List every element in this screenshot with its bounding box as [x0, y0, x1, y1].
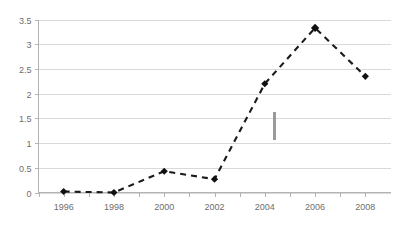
- y-tick-label: 0.5: [19, 164, 32, 174]
- y-axis-labels: 00.511.522.533.5: [19, 16, 32, 199]
- gridlines: [39, 21, 391, 194]
- x-tick-label: 1996: [54, 202, 74, 212]
- x-tick-label: 2008: [355, 202, 375, 212]
- x-tick-label: 2006: [305, 202, 325, 212]
- series-line-path: [64, 28, 366, 193]
- y-tick-label: 2: [26, 90, 31, 100]
- y-tick-label: 3.5: [19, 16, 32, 26]
- y-tick-label: 0: [26, 189, 31, 199]
- data-point-marker: [362, 73, 369, 80]
- data-point-marker: [211, 176, 218, 183]
- y-tick-label: 1: [26, 139, 31, 149]
- y-tick-label: 3: [26, 40, 31, 50]
- chart-canvas: 00.511.522.533.5 19961998200020022004200…: [0, 0, 406, 238]
- x-tick-label: 1998: [104, 202, 124, 212]
- x-tick-label: 2004: [255, 202, 275, 212]
- y-tick-label: 1.5: [19, 114, 32, 124]
- x-tick-label: 2002: [204, 202, 224, 212]
- line-chart: 00.511.522.533.5 19961998200020022004200…: [0, 0, 406, 238]
- data-point-marker: [60, 188, 67, 195]
- data-point-marker: [110, 189, 117, 196]
- x-axis-labels: 1996199820002002200420062008: [54, 202, 376, 212]
- x-tick-label: 2000: [154, 202, 174, 212]
- y-tick-label: 2.5: [19, 65, 32, 75]
- series-markers: [60, 24, 369, 196]
- y-axis-ticks: [35, 21, 39, 194]
